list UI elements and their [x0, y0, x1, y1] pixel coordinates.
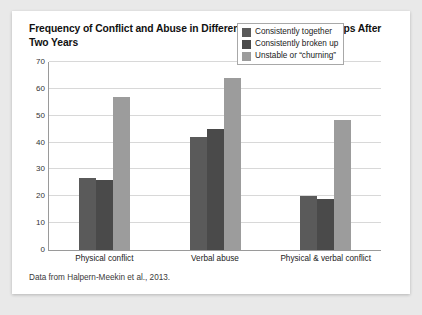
- bar: [113, 97, 130, 250]
- bar: [334, 120, 351, 250]
- bar: [190, 137, 207, 250]
- bar-groups: Physical conflictVerbal abusePhysical & …: [49, 62, 381, 250]
- legend-swatch-unstable-churning: [242, 52, 251, 61]
- y-axis-tick-label: 10: [36, 218, 45, 227]
- bar: [96, 180, 113, 250]
- source-note: Data from Halpern-Meekin et al., 2013.: [29, 273, 170, 282]
- bar: [224, 78, 241, 250]
- legend-label: Consistently together: [255, 27, 332, 37]
- plot-frame: 010203040506070 Physical conflictVerbal …: [48, 62, 381, 251]
- legend-label: Unstable or “churning”: [255, 51, 336, 61]
- chart-card: Frequency of Conflict and Abuse in Diffe…: [12, 11, 410, 294]
- bar: [207, 129, 224, 250]
- bar: [79, 178, 96, 251]
- y-axis-tick-label: 40: [36, 137, 45, 146]
- x-axis-category-label: Physical & verbal conflict: [270, 254, 381, 263]
- legend-label: Consistently broken up: [255, 39, 338, 49]
- bar-group: Verbal abuse: [160, 62, 271, 250]
- legend-swatch-consistently-broken-up: [242, 40, 251, 49]
- y-axis-tick-label: 20: [36, 191, 45, 200]
- y-axis-tick-label: 50: [36, 110, 45, 119]
- legend-swatch-consistently-together: [242, 28, 251, 37]
- y-axis-tick-label: 70: [36, 57, 45, 66]
- bar: [317, 199, 334, 250]
- page-background: Frequency of Conflict and Abuse in Diffe…: [0, 0, 422, 315]
- x-axis-category-label: Verbal abuse: [160, 254, 271, 263]
- x-axis-category-label: Physical conflict: [49, 254, 160, 263]
- legend-item: Unstable or “churning”: [242, 51, 338, 61]
- y-axis-tick-label: 60: [36, 83, 45, 92]
- y-axis-tick-label: 30: [36, 164, 45, 173]
- y-axis-tick-label: 0: [41, 245, 45, 254]
- bar: [300, 196, 317, 250]
- chart-legend: Consistently together Consistently broke…: [237, 23, 344, 65]
- bar-group: Physical & verbal conflict: [270, 62, 381, 250]
- legend-item: Consistently broken up: [242, 39, 338, 49]
- chart-plot-area: 010203040506070 Physical conflictVerbal …: [29, 59, 401, 267]
- legend-item: Consistently together: [242, 27, 338, 37]
- bar-group: Physical conflict: [49, 62, 160, 250]
